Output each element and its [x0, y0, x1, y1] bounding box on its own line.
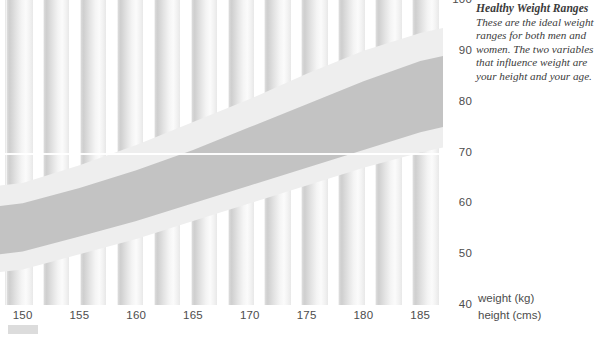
- annotation-body: These are the ideal weight ranges for bo…: [476, 16, 609, 84]
- x-tick-label: 175: [297, 309, 317, 321]
- annotation-title: Healthy Weight Ranges: [476, 2, 609, 16]
- x-tick-label: 185: [410, 309, 430, 321]
- y-tick-label: 80: [446, 95, 472, 107]
- y-tick-label: 90: [446, 44, 472, 56]
- y-tick-label: 100: [446, 0, 472, 5]
- y-axis-unit-label: weight (kg): [478, 292, 534, 304]
- x-tick-label: 150: [13, 309, 33, 321]
- x-tick-label: 170: [240, 309, 260, 321]
- plot-area: [0, 0, 443, 305]
- annotation-block: Healthy Weight Ranges These are the idea…: [476, 2, 609, 84]
- x-tick-label: 160: [126, 309, 146, 321]
- chart-canvas: 150155160165170175180185 405060708090100…: [0, 0, 611, 339]
- y-tick-label: 50: [446, 247, 472, 259]
- gridline-70: [0, 153, 443, 155]
- y-tick-label: 40: [446, 298, 472, 310]
- y-tick-label: 60: [446, 196, 472, 208]
- x-tick-label: 165: [183, 309, 203, 321]
- legend-swatch: [8, 325, 38, 334]
- x-axis-unit-label: height (cms): [478, 309, 541, 321]
- y-tick-label: 70: [446, 146, 472, 158]
- x-tick-label: 180: [353, 309, 373, 321]
- x-tick-label: 155: [70, 309, 90, 321]
